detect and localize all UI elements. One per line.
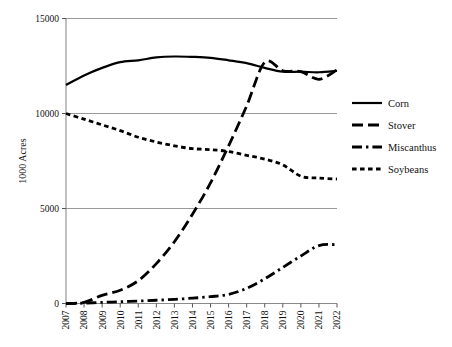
x-tick-label: 2019	[278, 310, 288, 329]
x-tick-label: 2018	[260, 310, 270, 329]
legend-label-soybeans: Soybeans	[388, 164, 428, 175]
chart-canvas: 2007200820092010201120122013201420152016…	[0, 0, 452, 347]
gridlines	[66, 19, 337, 304]
series-line-soybeans	[66, 114, 337, 180]
x-tick-label: 2012	[152, 310, 162, 329]
axes	[66, 19, 337, 304]
x-tick-label: 2016	[224, 310, 234, 329]
x-tick-label: 2009	[98, 310, 108, 329]
series-line-corn	[66, 56, 337, 85]
x-tick-label: 2007	[61, 310, 71, 329]
line-chart: 2007200820092010201120122013201420152016…	[0, 0, 452, 347]
x-tick-label: 2015	[206, 310, 216, 329]
legend-label-miscanthus: Miscanthus	[388, 142, 436, 153]
y-tick-label: 15000	[35, 14, 59, 24]
y-axis-title-label: 1000 Acres	[17, 138, 28, 183]
x-tick-label: 2021	[314, 310, 324, 329]
y-tick-label: 5000	[40, 204, 59, 214]
x-axis-tick-labels: 2007200820092010201120122013201420152016…	[61, 310, 342, 329]
x-tick-label: 2013	[170, 310, 180, 329]
chart-legend: CornStoverMiscanthusSoybeans	[352, 98, 436, 175]
series-lines	[66, 56, 337, 303]
x-tick-label: 2017	[242, 310, 252, 329]
y-tick-label: 10000	[35, 109, 59, 119]
x-tick-label: 2022	[332, 310, 342, 329]
y-axis-ticks	[62, 19, 66, 304]
y-tick-label: 0	[54, 299, 59, 309]
legend-label-stover: Stover	[388, 120, 416, 131]
legend-label-corn: Corn	[388, 98, 410, 109]
y-axis-title: 1000 Acres	[17, 138, 28, 183]
x-axis-ticks	[66, 304, 337, 308]
y-axis-tick-labels: 050001000015000	[35, 14, 59, 309]
x-tick-label: 2020	[296, 310, 306, 329]
series-line-stover	[66, 61, 337, 304]
x-tick-label: 2011	[134, 310, 144, 329]
x-tick-label: 2010	[116, 310, 126, 329]
x-tick-label: 2014	[188, 310, 198, 329]
x-tick-label: 2008	[79, 310, 89, 329]
